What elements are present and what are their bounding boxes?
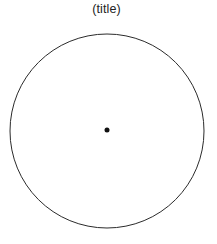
- plot-area: [0, 0, 217, 244]
- dot-icon: [105, 128, 110, 133]
- figure-canvas: (title): [0, 0, 217, 244]
